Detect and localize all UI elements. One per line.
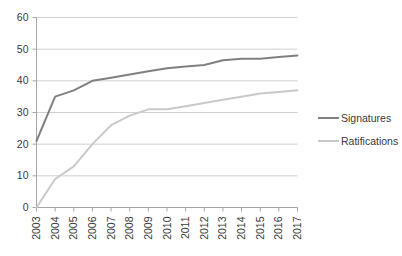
y-tick-label: 20 — [17, 138, 29, 150]
x-tick-label: 2013 — [216, 216, 228, 240]
x-tick-label: 2011 — [179, 216, 191, 239]
y-tick-label: 0 — [23, 201, 29, 213]
x-tick-label: 2017 — [291, 216, 303, 240]
line-chart: 0102030405060 20032004200520062007200820… — [0, 0, 402, 256]
y-tick-label: 60 — [17, 11, 29, 23]
x-tick-label: 2016 — [272, 216, 284, 240]
x-tick-label: 2004 — [49, 216, 61, 240]
x-axis-tick-labels: 2003200420052006200720082009201020112012… — [30, 216, 303, 240]
legend-label-signatures: Signatures — [341, 112, 391, 124]
x-tick-label: 2012 — [198, 216, 210, 240]
x-tick-label: 2006 — [86, 216, 98, 240]
x-tick-label: 2008 — [123, 216, 135, 240]
y-tick-label: 10 — [17, 169, 29, 181]
x-tick-label: 2003 — [30, 216, 42, 240]
x-tick-label: 2014 — [235, 216, 247, 240]
x-tick-label: 2005 — [67, 216, 79, 240]
x-tick-label: 2010 — [161, 216, 173, 240]
chart-canvas: 0102030405060 20032004200520062007200820… — [0, 0, 402, 256]
x-tick-label: 2007 — [105, 216, 117, 240]
x-tick-label: 2015 — [254, 216, 266, 240]
legend-label-ratifications: Ratifications — [341, 135, 398, 147]
x-tick-label: 2009 — [142, 216, 154, 240]
y-tick-label: 40 — [17, 74, 29, 86]
y-tick-label: 30 — [17, 106, 29, 118]
y-tick-label: 50 — [17, 43, 29, 55]
